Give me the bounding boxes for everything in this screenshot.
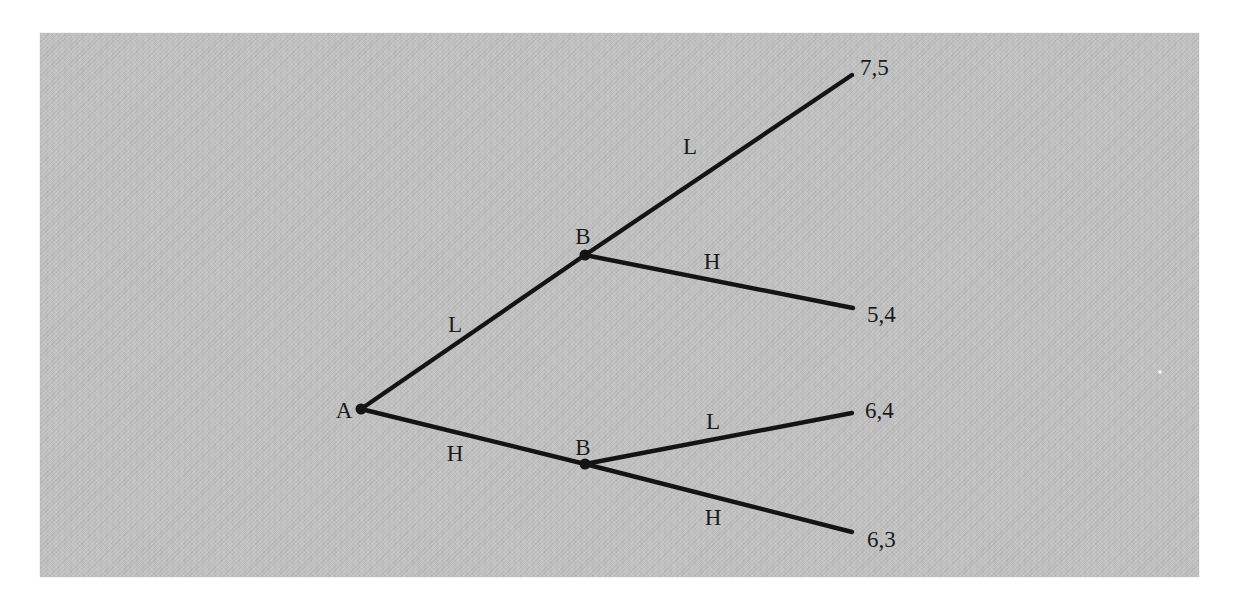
branch-label-btop-h: H <box>704 250 721 273</box>
payoff-hh: 6,3 <box>867 528 896 551</box>
node-a-dot <box>356 404 367 415</box>
node-b-top-dot <box>580 250 591 261</box>
node-b-bottom-dot <box>580 459 591 470</box>
payoff-lh: 5,4 <box>867 303 896 326</box>
branch-label-a-h: H <box>447 442 464 465</box>
edge-btop-l <box>585 75 852 255</box>
scan-speck <box>1158 370 1162 374</box>
game-tree-figure: A B B L H L H L H 7,5 5,4 6,4 6,3 <box>40 33 1199 577</box>
tree-edges-canvas <box>40 33 1199 577</box>
branch-label-bbottom-l: L <box>706 410 720 433</box>
node-b-bottom-label: B <box>575 436 590 459</box>
node-a-label: A <box>336 399 353 422</box>
edge-a-h <box>361 409 585 464</box>
payoff-ll: 7,5 <box>860 56 889 79</box>
node-b-top-label: B <box>575 225 590 248</box>
branch-label-btop-l: L <box>683 135 697 158</box>
branch-label-a-l: L <box>448 313 462 336</box>
branch-label-bbottom-h: H <box>705 506 722 529</box>
edge-a-l <box>361 255 585 409</box>
payoff-hl: 6,4 <box>865 399 894 422</box>
